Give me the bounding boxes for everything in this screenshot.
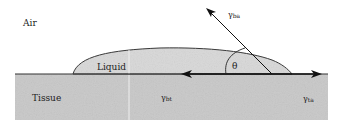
diagram-graphics [0, 0, 343, 126]
gamma-bt-label: γbt [161, 93, 172, 102]
gamma-ba-label: γba [228, 10, 240, 19]
theta-label: θ [232, 61, 237, 71]
air-label: Air [23, 18, 37, 28]
arrowhead-up-icon [206, 8, 216, 17]
liquid-label: Liquid [97, 62, 126, 72]
tissue-label: Tissue [32, 93, 61, 103]
gamma-ta-label: γta [303, 94, 314, 103]
contact-angle-diagram: Air Liquid Tissue γba γbt γta θ [0, 0, 343, 126]
